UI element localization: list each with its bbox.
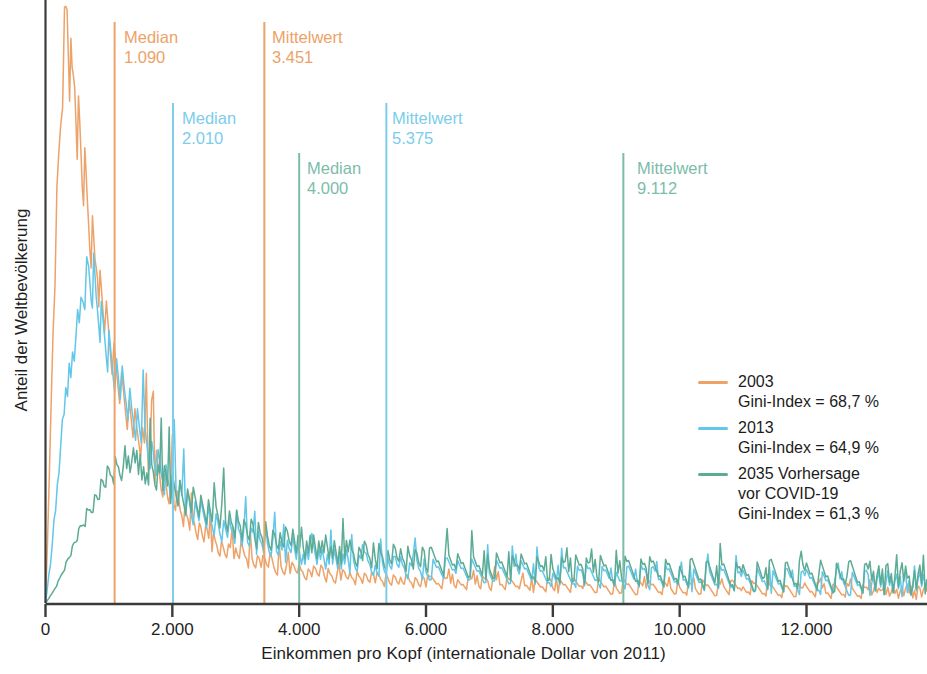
legend-label-line: 2003 [738, 372, 879, 392]
legend-label: 2013Gini-Index = 64,9 % [738, 418, 879, 458]
x-tick-label: 4.000 [278, 620, 321, 640]
legend-label-line: vor COVID-19 [738, 484, 879, 504]
legend-label-line: Gini-Index = 64,9 % [738, 438, 879, 458]
plot-area [0, 0, 927, 674]
x-tick-label: 12.000 [781, 620, 833, 640]
x-tick-label: 0 [41, 620, 50, 640]
legend-item[interactable]: 2013Gini-Index = 64,9 % [698, 418, 924, 458]
legend-swatch-icon [698, 473, 728, 476]
x-tick-label: 10.000 [654, 620, 706, 640]
legend-item[interactable]: 2003Gini-Index = 68,7 % [698, 372, 924, 412]
legend-label: 2003Gini-Index = 68,7 % [738, 372, 879, 412]
x-tick-label: 2.000 [151, 620, 194, 640]
y-axis-title: Anteil der Weltbevölkerung [12, 160, 32, 460]
legend-label: 2035 Vorhersagevor COVID-19Gini-Index = … [738, 464, 879, 524]
x-tick-label: 8.000 [532, 620, 575, 640]
legend-swatch-icon [698, 381, 728, 384]
legend-label-line: Gini-Index = 68,7 % [738, 392, 879, 412]
x-axis-title: Einkommen pro Kopf (internationale Dolla… [0, 644, 927, 664]
legend-swatch-icon [698, 427, 728, 430]
legend-label-line: 2035 Vorhersage [738, 464, 879, 484]
legend-label-line: 2013 [738, 418, 879, 438]
x-tick-marks [46, 604, 807, 617]
income-distribution-chart: 02.0004.0006.0008.00010.00012.000 Median… [0, 0, 927, 674]
legend: 2003Gini-Index = 68,7 %2013Gini-Index = … [698, 372, 924, 530]
x-tick-label: 6.000 [405, 620, 448, 640]
legend-label-line: Gini-Index = 61,3 % [738, 504, 879, 524]
legend-item[interactable]: 2035 Vorhersagevor COVID-19Gini-Index = … [698, 464, 924, 524]
